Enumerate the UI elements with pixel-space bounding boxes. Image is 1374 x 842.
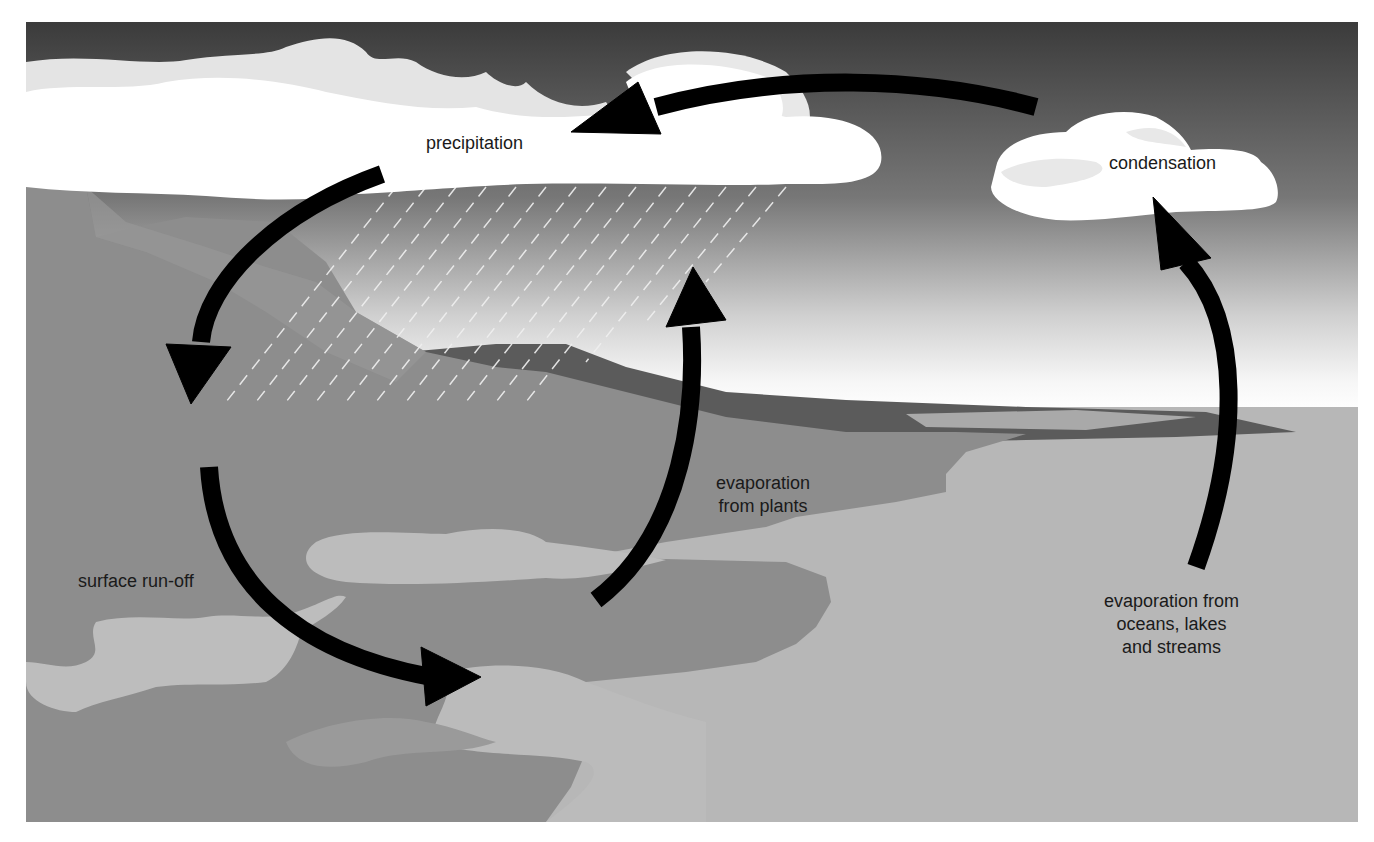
- water-cycle-diagram: precipitation condensation surface run-o…: [26, 22, 1358, 822]
- label-condensation: condensation: [1109, 152, 1216, 175]
- diagram-scene: [26, 22, 1358, 822]
- label-surface-runoff: surface run-off: [78, 570, 194, 593]
- label-line: and streams: [1104, 636, 1239, 659]
- label-line: from plants: [716, 495, 810, 518]
- label-evaporation-from-plants: evaporation from plants: [716, 472, 810, 518]
- label-precipitation: precipitation: [426, 132, 523, 155]
- label-evaporation-from-oceans: evaporation from oceans, lakes and strea…: [1104, 590, 1239, 659]
- label-line: oceans, lakes: [1104, 613, 1239, 636]
- label-line: evaporation from: [1104, 590, 1239, 613]
- label-line: evaporation: [716, 472, 810, 495]
